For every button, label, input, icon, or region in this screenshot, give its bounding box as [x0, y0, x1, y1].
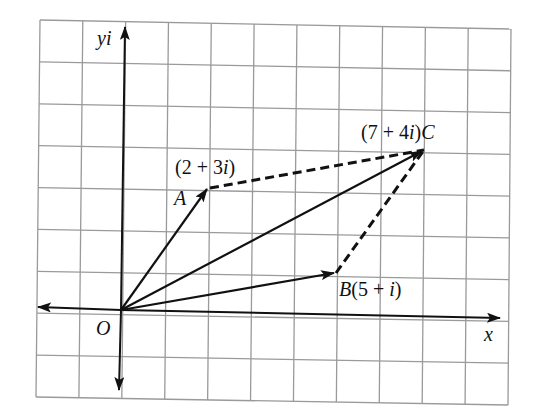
grid	[36, 20, 511, 405]
point-C-label: (7 + 4i)C	[361, 122, 435, 142]
grid-line-horizontal	[38, 229, 510, 237]
dashed-AC	[210, 150, 424, 188]
grid-line-horizontal	[40, 62, 511, 71]
diagram-canvas	[0, 0, 537, 417]
grid-line-vertical	[336, 26, 339, 402]
grid-line-vertical	[508, 29, 511, 405]
vector-OB	[121, 273, 334, 310]
grid-line-vertical	[251, 24, 255, 401]
y-axis-negative	[119, 310, 121, 390]
grid-line-vertical	[293, 25, 296, 401]
vector-OA	[121, 189, 207, 310]
x-axis-label: x	[484, 324, 493, 344]
grid-line-vertical	[165, 22, 169, 399]
point-A-letter: A	[174, 188, 186, 208]
x-axis-positive	[121, 310, 500, 318]
grid-line-vertical	[36, 20, 40, 397]
grid-line-horizontal	[39, 146, 510, 155]
argand-diagram: yi x O (2 + 3i) A B(5 + i) (7 + 4i)C	[0, 0, 537, 417]
origin-label: O	[96, 318, 110, 338]
point-A-coordinate: (2 + 3i)	[175, 157, 235, 177]
grid-line-horizontal	[38, 188, 509, 197]
grid-line-horizontal	[37, 271, 509, 279]
y-axis-label: yi	[97, 28, 111, 48]
grid-line-horizontal	[36, 355, 508, 363]
grid-line-vertical	[465, 28, 468, 404]
grid-line-horizontal	[36, 397, 508, 405]
grid-line-horizontal	[39, 104, 510, 113]
grid-line-vertical	[379, 27, 382, 403]
point-B-label: B(5 + i)	[339, 279, 401, 299]
grid-line-vertical	[79, 21, 83, 398]
grid-line-vertical	[208, 23, 212, 400]
grid-line-vertical	[422, 27, 425, 403]
